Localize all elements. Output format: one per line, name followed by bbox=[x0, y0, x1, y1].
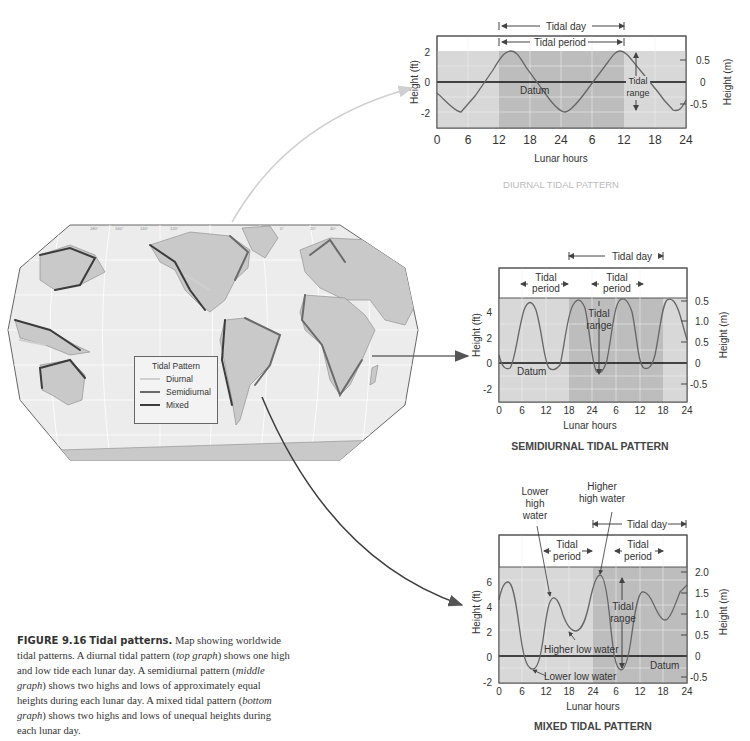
svg-text:12: 12 bbox=[634, 405, 646, 416]
diurnal-title: DIURNAL TIDAL PATTERN bbox=[503, 179, 619, 190]
svg-text:24: 24 bbox=[681, 686, 693, 697]
svg-text:0: 0 bbox=[695, 358, 701, 369]
svg-text:12: 12 bbox=[540, 686, 552, 697]
svg-text:18: 18 bbox=[563, 405, 575, 416]
svg-text:12: 12 bbox=[617, 133, 631, 147]
svg-text:180°: 180° bbox=[90, 226, 99, 231]
svg-text:Tidal: Tidal bbox=[556, 539, 577, 550]
svg-text:0: 0 bbox=[700, 77, 706, 88]
mixed-xlabel: Lunar hours bbox=[566, 701, 619, 712]
svg-text:120°: 120° bbox=[170, 226, 179, 231]
semidiurnal-title: SEMIDIURNAL TIDAL PATTERN bbox=[511, 440, 668, 452]
svg-text:20°: 20° bbox=[310, 226, 316, 231]
svg-text:range: range bbox=[626, 88, 649, 98]
semidiurnal-tidal-period-1: period bbox=[532, 283, 560, 294]
svg-text:4: 4 bbox=[486, 307, 492, 318]
svg-text:6: 6 bbox=[519, 686, 525, 697]
svg-text:18: 18 bbox=[523, 133, 537, 147]
svg-text:6: 6 bbox=[613, 405, 619, 416]
mixed-title: MIXED TIDAL PATTERN bbox=[534, 720, 652, 732]
svg-text:0: 0 bbox=[496, 686, 502, 697]
svg-text:6: 6 bbox=[519, 405, 525, 416]
svg-text:6: 6 bbox=[613, 686, 619, 697]
svg-text:Height (m): Height (m) bbox=[718, 589, 729, 636]
lower-low-water-label: Lower low water bbox=[544, 671, 617, 682]
svg-text:18: 18 bbox=[657, 686, 669, 697]
svg-text:0: 0 bbox=[695, 651, 701, 662]
svg-text:6: 6 bbox=[589, 133, 596, 147]
legend-title: Tidal Pattern bbox=[135, 361, 217, 371]
lower-high-water-label: Lower bbox=[521, 486, 549, 497]
svg-text:-2: -2 bbox=[483, 677, 492, 688]
diurnal-tidal-day-label: Tidal day bbox=[546, 21, 586, 32]
svg-text:-0.5: -0.5 bbox=[690, 672, 708, 683]
svg-text:1.5: 1.5 bbox=[695, 588, 709, 599]
svg-text:2: 2 bbox=[486, 333, 492, 344]
svg-text:12: 12 bbox=[634, 686, 646, 697]
svg-text:water: water bbox=[522, 510, 548, 521]
legend-item-mixed: Mixed bbox=[140, 400, 217, 410]
svg-text:-0.5: -0.5 bbox=[690, 379, 708, 390]
svg-text:Tidal: Tidal bbox=[627, 539, 648, 550]
svg-text:6: 6 bbox=[486, 577, 492, 588]
svg-text:Height (ft): Height (ft) bbox=[409, 60, 420, 104]
svg-text:12: 12 bbox=[540, 405, 552, 416]
svg-text:1.0: 1.0 bbox=[695, 316, 709, 327]
svg-text:1.0: 1.0 bbox=[695, 609, 709, 620]
svg-text:Height (ft): Height (ft) bbox=[471, 590, 482, 634]
svg-text:0: 0 bbox=[496, 405, 502, 416]
diurnal-xlabel: Lunar hours bbox=[534, 153, 587, 164]
svg-text:Tidal: Tidal bbox=[606, 272, 627, 283]
svg-text:0: 0 bbox=[424, 77, 430, 88]
svg-text:-2: -2 bbox=[483, 384, 492, 395]
svg-text:0: 0 bbox=[434, 133, 441, 147]
semidiurnal-xlabel: Lunar hours bbox=[563, 420, 616, 431]
mixed-tidal-day-label: Tidal day bbox=[627, 519, 667, 530]
semidiurnal-tidal-period-2: period bbox=[603, 283, 631, 294]
svg-text:18: 18 bbox=[563, 686, 575, 697]
svg-text:2: 2 bbox=[424, 47, 430, 58]
svg-text:18: 18 bbox=[657, 405, 669, 416]
svg-text:2.0: 2.0 bbox=[695, 567, 709, 578]
semidiurnal-swatch-icon bbox=[140, 391, 160, 393]
svg-text:0°: 0° bbox=[280, 226, 284, 231]
semidiurnal-tidal-day-label: Tidal day bbox=[612, 251, 652, 262]
mixed-tidal-range-label: Tidal bbox=[612, 601, 633, 612]
legend-item-diurnal: Diurnal bbox=[140, 374, 217, 384]
mixed-tidal-period-2: period bbox=[624, 551, 652, 562]
semidiurnal-datum-label: Datum bbox=[517, 366, 546, 377]
svg-text:0.5: 0.5 bbox=[695, 630, 709, 641]
semidiurnal-tidal-range-label: Tidal bbox=[588, 308, 609, 319]
svg-text:24: 24 bbox=[681, 405, 693, 416]
diurnal-swatch-icon bbox=[140, 378, 160, 380]
svg-text:2: 2 bbox=[486, 627, 492, 638]
svg-text:0: 0 bbox=[486, 652, 492, 663]
svg-text:140°: 140° bbox=[140, 226, 149, 231]
svg-text:24: 24 bbox=[587, 686, 599, 697]
figure-title: Tidal patterns. bbox=[89, 635, 172, 646]
mixed-tidal-period-1: period bbox=[553, 551, 581, 562]
higher-high-water-label: Higher bbox=[587, 481, 617, 492]
svg-text:-2: -2 bbox=[421, 108, 430, 119]
svg-text:24: 24 bbox=[554, 133, 568, 147]
svg-text:6: 6 bbox=[465, 133, 472, 147]
diurnal-connector-arrow bbox=[232, 88, 412, 222]
svg-text:Tidal: Tidal bbox=[535, 272, 556, 283]
svg-text:0: 0 bbox=[486, 358, 492, 369]
figure-caption: FIGURE 9.16 Tidal patterns. Map showing … bbox=[17, 633, 292, 738]
figure-label: FIGURE 9.16 bbox=[17, 635, 87, 646]
legend-item-semidiurnal: Semidiurnal bbox=[140, 387, 217, 397]
svg-text:24: 24 bbox=[679, 133, 693, 147]
map-legend: Tidal Pattern Diurnal Semidiurnal Mixed bbox=[134, 356, 218, 424]
svg-text:40°: 40° bbox=[330, 226, 336, 231]
diurnal-datum-label: Datum bbox=[520, 85, 549, 96]
svg-text:-0.5: -0.5 bbox=[690, 99, 708, 110]
svg-text:12: 12 bbox=[492, 133, 506, 147]
world-map: 180°160°140°120°0°20°40° bbox=[0, 225, 420, 462]
svg-text:0.5: 0.5 bbox=[695, 337, 709, 348]
figure-canvas: 180°160°140°120°0°20°40° Tidal day Tidal… bbox=[0, 0, 750, 741]
svg-text:0.5: 0.5 bbox=[695, 296, 709, 307]
svg-text:24: 24 bbox=[586, 405, 598, 416]
svg-text:range: range bbox=[586, 320, 612, 331]
mixed-datum-label: Datum bbox=[650, 660, 679, 671]
